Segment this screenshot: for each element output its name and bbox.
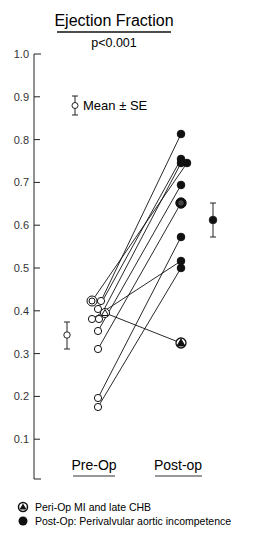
y-tick-label: 0.4: [14, 305, 29, 317]
pair-line: [98, 185, 181, 331]
pair-line: [98, 159, 181, 309]
category-pre-op: Pre-Op: [71, 457, 116, 473]
y-tick-label: 0.9: [14, 91, 29, 103]
pre-op-mean-se: [64, 322, 70, 349]
pair-line: [101, 134, 181, 301]
y-tick-label: 0.6: [14, 219, 29, 231]
y-tick-label: 0.3: [14, 348, 29, 360]
pair-line: [98, 237, 181, 398]
y-tick-label: 0.8: [14, 134, 29, 146]
pair-line: [92, 163, 187, 301]
paired-lines: [92, 134, 187, 407]
y-axis: [34, 54, 41, 479]
pair-line: [98, 268, 181, 407]
ejection-fraction-chart: Ejection Fraction p<0.001 1.00.90.80.70.…: [0, 0, 265, 546]
p-value: p<0.001: [91, 36, 137, 50]
post-op-points: [176, 130, 191, 348]
y-tick-label: 0.5: [14, 262, 29, 274]
category-post-op: Post-op: [154, 457, 202, 473]
y-tick-label: 0.7: [14, 176, 29, 188]
legend-label-peri-op: Peri-Op MI and late CHB: [35, 501, 151, 513]
mean-se-legend: Mean ± SE: [72, 96, 148, 115]
y-tick-label: 0.1: [14, 433, 29, 445]
post-op-mean-se: [209, 203, 217, 237]
chart-title: Ejection Fraction: [54, 12, 173, 29]
mean-se-label: Mean ± SE: [83, 98, 148, 113]
y-tick-label: 0.2: [14, 390, 29, 402]
pre-op-triangle-marker: [101, 309, 110, 318]
pair-line: [99, 163, 181, 319]
legend: Peri-Op MI and late CHB Post-Op: Perival…: [19, 501, 232, 527]
filled-circle-icon: [19, 517, 28, 526]
y-tick-label: 1.0: [14, 48, 29, 60]
triangle-circle-icon: [19, 503, 28, 512]
y-axis-ticks: 1.00.90.80.70.60.50.40.30.20.1: [14, 48, 40, 445]
pair-line: [105, 313, 181, 343]
post-op-triangle-marker: [176, 338, 186, 348]
legend-label-post-op: Post-Op: Perivalvular aortic incompetenc…: [35, 515, 231, 527]
